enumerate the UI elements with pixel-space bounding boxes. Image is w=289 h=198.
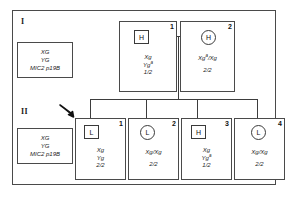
symbol-letter: L <box>90 129 94 136</box>
legend-line-mic2: MIC2 p19B <box>30 151 60 158</box>
individual-number: 3 <box>225 120 229 127</box>
generation-label-two: II <box>21 107 28 116</box>
male-square-symbol[interactable]: H <box>191 125 206 139</box>
genotype-block: Xg Yg 2/2 <box>76 147 125 170</box>
symbol-letter: L <box>146 129 150 136</box>
drop-line-child-4 <box>257 99 258 118</box>
symbol-letter: H <box>196 129 201 136</box>
individual-I-1[interactable]: 1 H Xg Yga 1/2 <box>119 21 177 92</box>
drop-line-child-3 <box>197 99 198 118</box>
dosage-value: 2/2 <box>76 162 125 170</box>
female-circle-symbol[interactable]: L <box>140 125 155 140</box>
dosage-value: 2/2 <box>181 67 234 75</box>
male-square-symbol[interactable]: H <box>134 30 149 44</box>
legend-line-xg: XG <box>41 135 50 142</box>
individual-II-3[interactable]: 3 H Xg Yga 1/2 <box>181 118 232 180</box>
genotype-line-1: Xg/Xg <box>235 149 284 157</box>
drop-line-child-2 <box>146 99 147 118</box>
genotype-block: Xga/Xg 2/2 <box>181 55 234 74</box>
individual-number: 2 <box>172 120 176 127</box>
generation-label-one: I <box>21 17 25 26</box>
sibship-line <box>90 99 257 100</box>
genotype-block: Xg Yga 1/2 <box>120 54 176 77</box>
individual-number: 4 <box>278 120 282 127</box>
legend-line-yg: YG <box>41 57 50 64</box>
genotype-block: Xg/Xg 2/2 <box>129 149 178 168</box>
genotype-line-1: Xga/Xg <box>181 55 234 63</box>
individual-I-2[interactable]: 2 H Xga/Xg 2/2 <box>180 21 235 92</box>
genotype-line-1: Xg/Xg <box>129 149 178 157</box>
individual-II-2[interactable]: 2 L Xg/Xg 2/2 <box>128 118 179 180</box>
female-circle-symbol[interactable]: H <box>201 30 216 45</box>
legend-line-xg: XG <box>41 49 50 56</box>
individual-II-4[interactable]: 4 L Xg/Xg 2/2 <box>234 118 285 180</box>
drop-line-child-1 <box>90 99 91 118</box>
dosage-value: 2/2 <box>129 161 178 169</box>
figure-frame: I II XG YG MIC2 p19B XG YG MIC2 p19B <box>12 10 276 185</box>
genotype-line-2: Yga <box>182 155 231 163</box>
dosage-value: 1/2 <box>182 162 231 170</box>
individual-II-1[interactable]: 1 L Xg Yg 2/2 <box>75 118 126 180</box>
descent-line <box>178 36 179 99</box>
legend-line-yg: YG <box>41 143 50 150</box>
genotype-line-1: Xg <box>182 147 231 155</box>
genotype-line-2: Yg <box>76 155 125 163</box>
male-square-symbol[interactable]: L <box>84 125 99 139</box>
dosage-value: 2/2 <box>235 161 284 169</box>
pedigree-figure: I II XG YG MIC2 p19B XG YG MIC2 p19B <box>0 0 289 198</box>
genotype-block: Xg/Xg 2/2 <box>235 149 284 168</box>
individual-number: 2 <box>228 23 232 30</box>
dosage-value: 1/2 <box>120 69 176 77</box>
proband-arrow <box>59 103 79 119</box>
individual-number: 1 <box>170 23 174 30</box>
legend-generation-one: XG YG MIC2 p19B <box>17 42 73 78</box>
genotype-line-2: Yga <box>120 62 176 70</box>
legend-line-mic2: MIC2 p19B <box>30 65 60 72</box>
genotype-line-1: Xg <box>120 54 176 62</box>
genotype-block: Xg Yga 1/2 <box>182 147 231 170</box>
symbol-letter: H <box>139 34 144 41</box>
symbol-letter: L <box>257 129 261 136</box>
genotype-line-1: Xg <box>76 147 125 155</box>
legend-generation-two: XG YG MIC2 p19B <box>17 128 73 164</box>
symbol-letter: H <box>206 34 211 41</box>
individual-number: 1 <box>119 120 123 127</box>
female-circle-symbol[interactable]: L <box>251 125 266 140</box>
